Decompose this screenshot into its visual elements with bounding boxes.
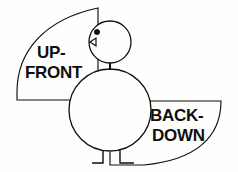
bird-diagram: UP- FRONT BACK- DOWN bbox=[0, 0, 238, 172]
right-leg bbox=[120, 149, 134, 163]
backdown-label-line1: BACK- bbox=[150, 106, 203, 125]
upfront-label-line1: UP- bbox=[37, 43, 65, 62]
figure-root: UP- FRONT BACK- DOWN bbox=[0, 0, 238, 172]
eye-dot bbox=[94, 29, 99, 34]
left-leg bbox=[92, 150, 103, 163]
backdown-label-line2: DOWN bbox=[152, 126, 205, 145]
upfront-label-line2: FRONT bbox=[25, 63, 83, 82]
